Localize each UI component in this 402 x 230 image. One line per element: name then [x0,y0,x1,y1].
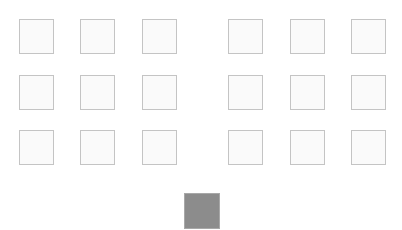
right-grid-tile-r2-c1[interactable] [228,75,263,110]
right-grid-tile-r2-c3[interactable] [351,75,386,110]
left-grid-tile-r3-c3[interactable] [142,130,177,165]
left-grid-tile-r2-c3[interactable] [142,75,177,110]
left-grid-tile-r2-c1[interactable] [19,75,54,110]
right-grid-tile-r1-c1[interactable] [228,19,263,54]
left-grid-tile-r3-c2[interactable] [80,130,115,165]
right-grid-tile-r3-c3[interactable] [351,130,386,165]
left-grid-tile-r2-c2[interactable] [80,75,115,110]
left-grid-tile-r1-c1[interactable] [19,19,54,54]
right-grid-tile-r2-c2[interactable] [290,75,325,110]
right-grid-tile-r3-c2[interactable] [290,130,325,165]
right-grid-tile-r1-c2[interactable] [290,19,325,54]
right-grid-tile-r1-c3[interactable] [351,19,386,54]
left-grid-tile-r1-c2[interactable] [80,19,115,54]
right-grid-tile-r3-c1[interactable] [228,130,263,165]
active-tile[interactable] [184,193,220,229]
left-grid-tile-r3-c1[interactable] [19,130,54,165]
left-grid-tile-r1-c3[interactable] [142,19,177,54]
